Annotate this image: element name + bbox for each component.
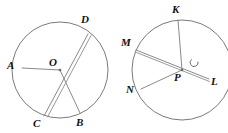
point-label-B: B [76, 117, 83, 128]
center-point-O [59, 69, 62, 72]
geometry-figure: A D B C O K L N M P [0, 0, 228, 133]
right-circle-group [132, 20, 228, 120]
point-label-C: C [33, 118, 40, 129]
center-label-O: O [49, 57, 57, 68]
point-label-D: D [81, 14, 89, 25]
center-point-P [181, 69, 184, 72]
left-circle-group [12, 22, 108, 118]
segment-radius-OB [60, 70, 80, 113]
figure-canvas [0, 0, 228, 133]
point-label-K: K [172, 4, 179, 15]
center-label-P: P [174, 72, 181, 83]
segment-diameter-CD [44, 34, 88, 116]
segment-diameter-ML-offset [137, 53, 210, 82]
angle-mark-icon [190, 59, 198, 66]
point-label-N: N [126, 84, 134, 95]
segment-radius-PK [178, 20, 182, 70]
segment-diameter-CD-offset [48, 36, 92, 118]
point-label-M: M [121, 37, 131, 48]
segment-radius-OA [22, 68, 60, 70]
point-label-L: L [211, 76, 218, 87]
point-label-A: A [7, 60, 14, 71]
